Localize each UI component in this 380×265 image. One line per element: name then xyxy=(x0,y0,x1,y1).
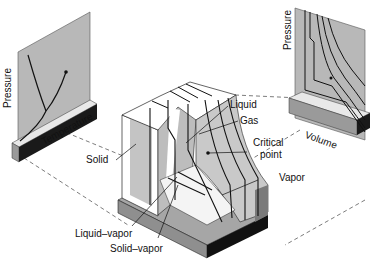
critical-point-label-line1: Critical xyxy=(253,138,284,148)
solid-region-label: Solid xyxy=(86,155,108,165)
liquid-region-label: Liquid xyxy=(230,100,257,110)
gas-region-label: Gas xyxy=(240,116,258,126)
critical-point-label-line2: point xyxy=(260,150,282,160)
vapor-region-label: Vapor xyxy=(279,173,305,183)
left-pressure-axis-label: Pressure xyxy=(3,68,13,108)
pv-projection-panel xyxy=(289,8,370,140)
solid-vapor-region-label: Solid–vapor xyxy=(110,244,163,254)
liquid-vapor-region-label: Liquid–vapor xyxy=(75,229,132,239)
right-pressure-axis-label: Pressure xyxy=(283,10,293,50)
